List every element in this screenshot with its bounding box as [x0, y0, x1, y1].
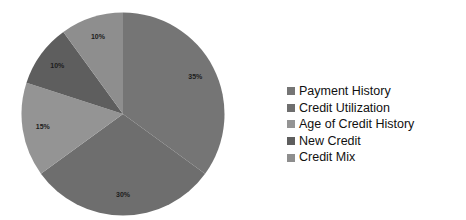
legend-item-label: Age of Credit History [299, 116, 414, 133]
pie-slice-group [21, 13, 224, 216]
legend-item-label: New Credit [299, 133, 361, 150]
pie-data-label: 10% [91, 33, 106, 40]
pie-data-label: 10% [50, 62, 65, 69]
legend-swatch-icon [287, 104, 295, 112]
pie-chart-plot-area: 35%30%15%10%10% [21, 12, 225, 216]
legend-item-label: Payment History [299, 83, 391, 100]
legend-swatch-icon [287, 137, 295, 145]
legend-item[interactable]: Payment History [287, 83, 462, 100]
legend-swatch-icon [287, 87, 295, 95]
legend-item[interactable]: New Credit [287, 133, 462, 150]
pie-data-label: 15% [36, 123, 51, 130]
legend-item[interactable]: Credit Mix [287, 149, 462, 166]
legend-item-label: Credit Mix [299, 149, 355, 166]
legend-swatch-icon [287, 120, 295, 128]
legend-item[interactable]: Age of Credit History [287, 116, 462, 133]
pie-data-label: 30% [116, 191, 131, 198]
pie-chart-svg: 35%30%15%10%10% [21, 12, 225, 216]
legend-item-label: Credit Utilization [299, 100, 390, 117]
pie-chart-figure: 35%30%15%10%10% Payment HistoryCredit Ut… [0, 0, 466, 220]
legend-swatch-icon [287, 154, 295, 162]
pie-data-label: 35% [188, 73, 203, 80]
legend-item[interactable]: Credit Utilization [287, 100, 462, 117]
chart-legend: Payment HistoryCredit UtilizationAge of … [287, 83, 462, 166]
